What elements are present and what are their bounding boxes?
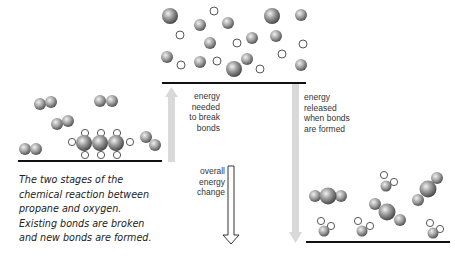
label-line: energy: [183, 177, 225, 188]
carbon-dioxide-molecule: [369, 198, 406, 226]
caption-line: Existing bonds are broken: [19, 217, 189, 232]
label-line: change: [183, 187, 225, 198]
water-molecule: [317, 217, 334, 236]
label-line: energy: [304, 92, 374, 103]
oxygen-molecule: [140, 131, 161, 151]
caption-line: chemical reaction between: [19, 188, 189, 203]
label-line: released: [304, 103, 374, 114]
oxygen-molecule: [19, 143, 42, 155]
overall-change-arrow: [223, 166, 239, 244]
water-molecule: [354, 217, 373, 236]
label-line: are formed: [304, 124, 374, 135]
oxygen-molecule: [94, 95, 118, 107]
energy-diagram: energy needed to break bonds energy rele…: [0, 0, 455, 256]
label-line: bonds: [178, 123, 220, 134]
water-molecule: [426, 219, 443, 238]
overall-energy-change-label: overall energy change: [183, 166, 225, 198]
energy-out-arrow: [289, 84, 302, 243]
oxygen-molecule: [51, 115, 74, 130]
caption-line: and new bonds are formed.: [19, 231, 189, 246]
caption-line: The two stages of the: [19, 173, 189, 188]
label-line: to break: [178, 112, 220, 123]
separated-atoms: [161, 7, 307, 77]
water-molecule: [380, 171, 397, 191]
caption-line: propane and oxygen.: [19, 202, 189, 217]
label-line: needed: [178, 102, 220, 113]
label-line: energy: [178, 91, 220, 102]
carbon-dioxide-molecule: [309, 188, 347, 205]
energy-released-label: energy released when bonds are formed: [304, 92, 374, 134]
oxygen-molecule: [34, 96, 57, 110]
propane-molecule: [68, 129, 133, 158]
label-line: overall: [183, 166, 225, 177]
label-line: when bonds: [304, 113, 374, 124]
figure-caption: The two stages of the chemical reaction …: [19, 173, 189, 246]
energy-in-arrow: [165, 87, 178, 162]
carbon-dioxide-molecule: [412, 172, 443, 206]
energy-needed-label: energy needed to break bonds: [178, 91, 220, 133]
